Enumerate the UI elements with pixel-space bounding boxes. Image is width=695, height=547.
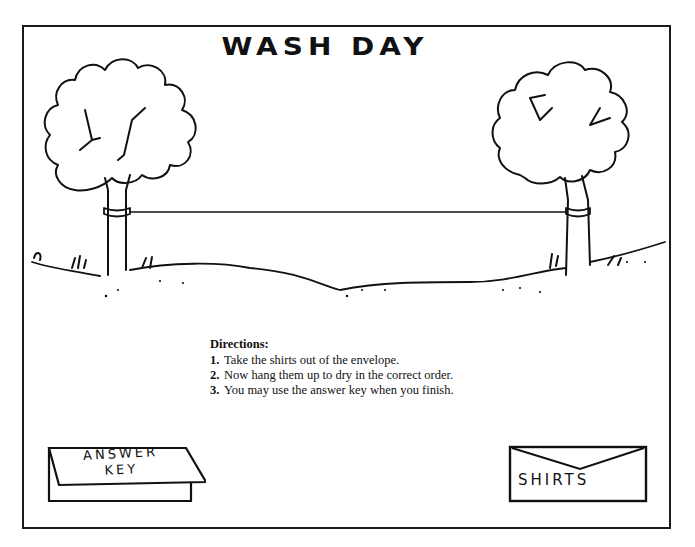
shirts-label: SHIRTS — [518, 471, 618, 489]
direction-step: 3. You may use the answer key when you f… — [210, 383, 550, 398]
right-tree-icon — [493, 62, 629, 275]
directions-heading: Directions: — [210, 337, 550, 352]
step-text: You may use the answer key when you fini… — [224, 383, 454, 398]
shirts-envelope[interactable]: SHIRTS — [508, 445, 648, 503]
step-text: Take the shirts out of the envelope. — [224, 353, 399, 368]
directions-block: Directions: 1. Take the shirts out of th… — [210, 337, 550, 398]
step-number: 2. — [210, 368, 224, 383]
answer-key-card[interactable]: ANSWER KEY — [46, 443, 206, 503]
page-title: WASH DAY — [200, 32, 450, 62]
answer-key-label: ANSWER KEY — [65, 443, 177, 481]
step-text: Now hang them up to dry in the correct o… — [224, 368, 453, 383]
direction-step: 1. Take the shirts out of the envelope. — [210, 353, 550, 368]
step-number: 3. — [210, 383, 224, 398]
direction-step: 2. Now hang them up to dry in the correc… — [210, 368, 550, 383]
left-tree-icon — [45, 59, 196, 275]
step-number: 1. — [210, 353, 224, 368]
